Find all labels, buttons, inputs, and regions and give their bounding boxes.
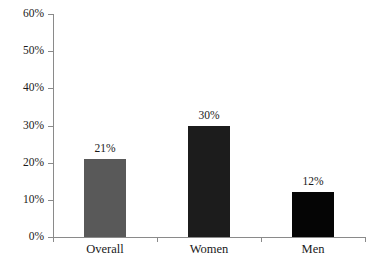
bar-value-label: 12%	[283, 176, 343, 188]
x-axis-tick	[261, 237, 262, 242]
y-axis-tick	[48, 51, 53, 52]
bar	[292, 192, 334, 237]
y-axis-tick	[48, 163, 53, 164]
y-axis-tick	[48, 126, 53, 127]
y-axis-tick-label: 20%	[0, 157, 44, 169]
x-axis-category-label: Men	[261, 243, 365, 256]
y-axis-tick	[48, 200, 53, 201]
y-axis-tick-label: 30%	[0, 120, 44, 132]
y-axis-tick	[48, 14, 53, 15]
y-axis-tick-label: 10%	[0, 194, 44, 206]
bar	[188, 126, 230, 238]
x-axis-tick	[53, 237, 54, 242]
x-axis-tick	[365, 237, 366, 242]
x-axis-category-label: Overall	[53, 243, 157, 256]
bar-chart: 0%10%20%30%40%50%60% 21%30%12% OverallWo…	[0, 0, 369, 267]
y-axis-tick-label: 50%	[0, 45, 44, 57]
bar-value-label: 30%	[179, 110, 239, 122]
y-axis-tick-label: 40%	[0, 82, 44, 94]
y-axis-line	[53, 14, 54, 238]
x-axis-line	[53, 237, 365, 238]
bar	[84, 159, 126, 237]
y-axis-tick-label: 0%	[0, 231, 44, 243]
x-axis-tick	[157, 237, 158, 242]
y-axis-tick	[48, 88, 53, 89]
y-axis-tick-label: 60%	[0, 8, 44, 20]
x-axis-category-label: Women	[157, 243, 261, 256]
bar-value-label: 21%	[75, 143, 135, 155]
